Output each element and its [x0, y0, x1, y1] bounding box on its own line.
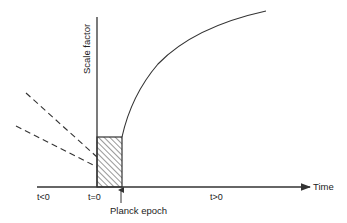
- label-t-positive: t>0: [210, 192, 223, 202]
- expansion-curve: [122, 11, 266, 137]
- scale-factor-diagram: Scale factor Time t<0 t=0 t>0 Planck epo…: [0, 0, 347, 223]
- label-t-negative: t<0: [37, 192, 50, 202]
- extrapolation-line-upper: [26, 93, 97, 157]
- x-axis-label: Time: [313, 181, 334, 192]
- y-axis-label: Scale factor: [81, 24, 92, 74]
- planck-epoch-region: [97, 137, 122, 187]
- planck-epoch-label: Planck epoch: [110, 205, 167, 216]
- extrapolation-line-lower: [16, 126, 97, 167]
- label-t-zero: t=0: [88, 192, 101, 202]
